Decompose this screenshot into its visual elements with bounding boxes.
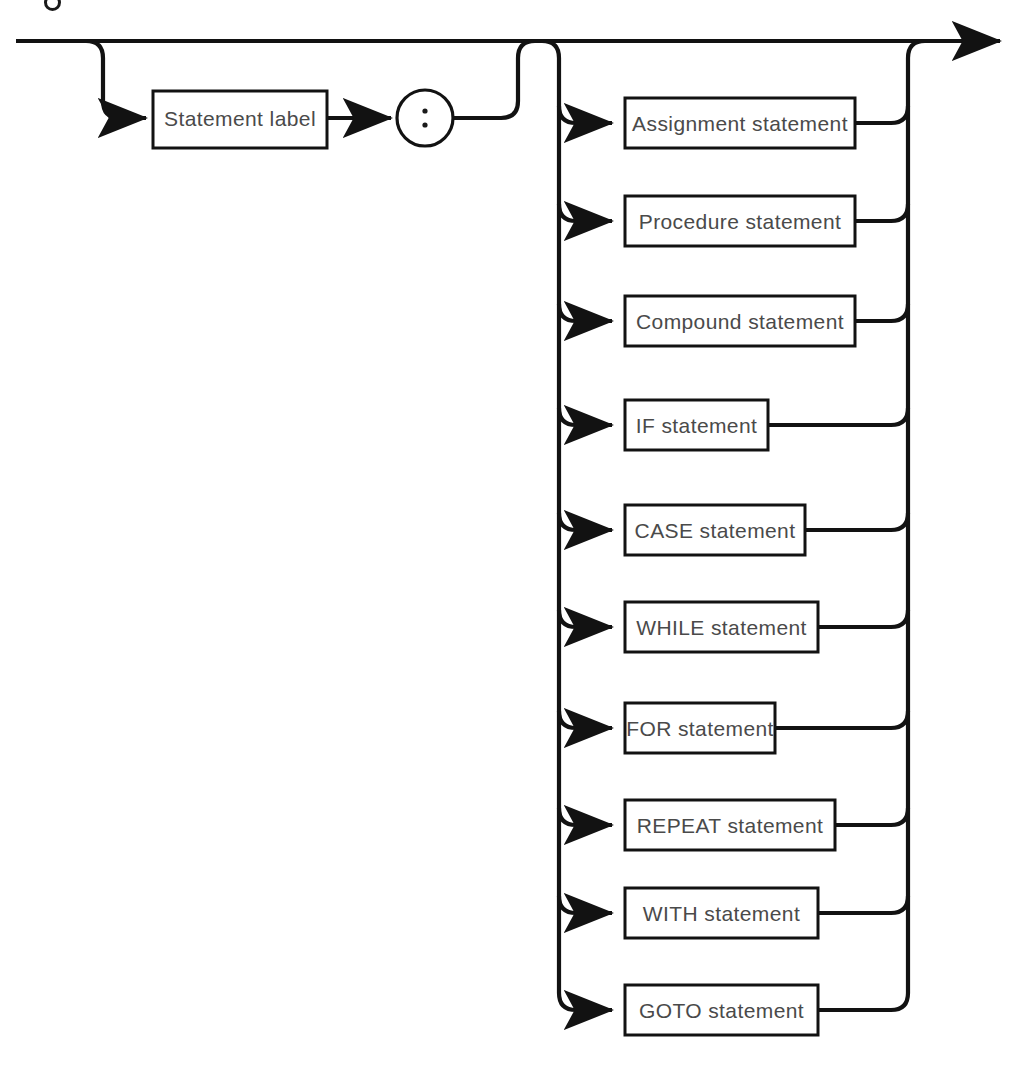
alternative-row: Procedure statement [559, 196, 908, 246]
alternative-row: IF statement [559, 400, 908, 450]
alternative-exit-line [818, 993, 908, 1010]
alternative-exit-line [818, 896, 908, 913]
alternative-row: WHILE statement [559, 602, 908, 652]
label-branch-return [453, 41, 535, 118]
alternative-label: Compound statement [636, 310, 844, 333]
colon-dot-lower [422, 122, 427, 127]
alternative-entry-line [559, 106, 612, 123]
left-rail [542, 41, 559, 993]
alternative-row: REPEAT statement [559, 800, 908, 850]
colon-dot-upper [422, 108, 427, 113]
alternative-entry-line [559, 993, 612, 1010]
alternative-label: WHILE statement [636, 616, 807, 639]
alternative-exit-line [805, 513, 908, 530]
alternative-exit-line [818, 610, 908, 627]
alternative-exit-line [768, 408, 908, 425]
syntax-diagram-canvas: Statement label Assignment statementProc… [0, 0, 1031, 1089]
alternative-label: REPEAT statement [637, 814, 824, 837]
alternative-label: CASE statement [635, 519, 796, 542]
alternative-row: FOR statement [559, 703, 908, 753]
alternative-label: GOTO statement [639, 999, 804, 1022]
alternative-exit-line [855, 204, 908, 221]
statement-label-text: Statement label [164, 107, 316, 130]
colon-circle [397, 90, 453, 146]
alternative-exit-line [855, 106, 908, 123]
alternative-rows-group: Assignment statementProcedure statementC… [559, 98, 908, 1035]
alternative-row: Compound statement [559, 296, 908, 346]
alternative-label: WITH statement [643, 902, 800, 925]
alternative-entry-line [559, 896, 612, 913]
alternative-row: CASE statement [559, 505, 908, 555]
alternative-entry-line [559, 808, 612, 825]
label-branch-in [86, 41, 146, 118]
alternative-row: GOTO statement [559, 985, 908, 1035]
railroad-diagram: Statement label Assignment statementProc… [0, 0, 1031, 1089]
alternative-row: Assignment statement [559, 98, 908, 148]
alternative-entry-line [559, 304, 612, 321]
alternative-entry-line [559, 408, 612, 425]
alternative-exit-line [855, 304, 908, 321]
alternative-entry-line [559, 610, 612, 627]
alternative-entry-line [559, 711, 612, 728]
alternative-exit-line [775, 711, 908, 728]
alternative-entry-line [559, 513, 612, 530]
alternative-exit-line [835, 808, 908, 825]
alternative-label: FOR statement [626, 717, 774, 740]
alternative-label: Procedure statement [639, 210, 842, 233]
alternative-label: Assignment statement [632, 112, 848, 135]
right-rail [908, 41, 925, 993]
alternative-entry-line [559, 204, 612, 221]
alternative-label: IF statement [636, 414, 758, 437]
statement-label-branch: Statement label [86, 41, 600, 148]
alternative-row: WITH statement [559, 888, 908, 938]
